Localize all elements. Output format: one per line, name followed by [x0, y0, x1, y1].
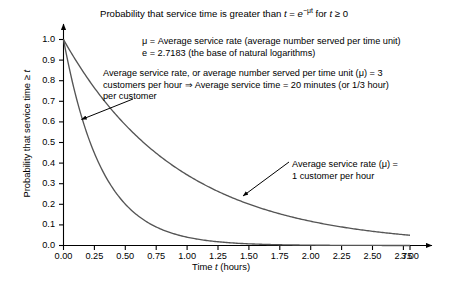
annotation-mu-1-callout: Average service rate (μ) = 1 customer pe…	[292, 159, 398, 182]
y-tick-label-0-5: 0.5	[29, 137, 55, 147]
annotation-definitions: μ = Average service rate (average number…	[142, 36, 401, 59]
x-axis-ticks	[64, 246, 411, 251]
title-tail-rest: ≥ 0	[332, 8, 348, 19]
mu1-line-2: 1 customer per hour	[292, 171, 398, 183]
exponential-service-time-chart: Probability that service time is greater…	[0, 0, 456, 286]
x-tick-label-2-50: 2.50	[356, 251, 390, 261]
y-tick-label-0-4: 0.4	[29, 158, 55, 168]
x-axis-title: Time t (hours)	[192, 261, 250, 273]
y-tick-label-0-3: 0.3	[29, 178, 55, 188]
definition-line-mu: μ = Average service rate (average number…	[142, 36, 401, 48]
y-tick-label-0-2: 0.2	[29, 199, 55, 209]
example-line-2: customers per hour ⇒ Average service tim…	[103, 80, 389, 92]
chart-title: Probability that service time is greater…	[100, 8, 348, 20]
y-tick-label-0-9: 0.9	[29, 55, 55, 65]
annotation-example: Average service rate, or average number …	[103, 68, 389, 103]
example-line-3: per customer	[103, 91, 389, 103]
y-tick-label-0-6: 0.6	[29, 116, 55, 126]
x-tick-label-1-25: 1.25	[201, 251, 235, 261]
mu1-line-1: Average service rate (μ) =	[292, 159, 398, 171]
mu1-leader-arrow	[243, 162, 289, 196]
x-tick-label-0-50: 0.50	[108, 251, 142, 261]
y-tick-label-0-0: 0.0	[29, 240, 55, 250]
title-lead: Probability that service time is greater…	[100, 8, 284, 19]
x-tick-label-3-00: 3.00	[393, 251, 427, 261]
definition-line-e: e = 2.7183 (the base of natural logarith…	[142, 48, 401, 60]
y-axis-title: Probability that service time ≥ t	[21, 39, 33, 229]
title-exponent: −μt	[303, 7, 313, 14]
y-axis-title-var: t	[21, 70, 32, 73]
y-tick-label-0-7: 0.7	[29, 96, 55, 106]
x-tick-label-1-75: 1.75	[263, 251, 297, 261]
x-tick-label-0-75: 0.75	[139, 251, 173, 261]
x-axis-title-tail: (hours)	[218, 261, 250, 272]
x-axis-title-lead: Time	[192, 261, 215, 272]
x-tick-label-2-25: 2.25	[325, 251, 359, 261]
y-tick-label-0-8: 0.8	[29, 75, 55, 85]
x-tick-label-0-25: 0.25	[77, 251, 111, 261]
example-line-1: Average service rate, or average number …	[103, 68, 389, 80]
y-tick-label-1-0: 1.0	[29, 34, 55, 44]
title-equals: =	[287, 8, 298, 19]
y-axis-title-lead: Probability that service time ≥	[21, 73, 32, 198]
x-tick-label-1-50: 1.50	[232, 251, 266, 261]
y-tick-label-0-1: 0.1	[29, 219, 55, 229]
x-tick-label-2-00: 2.00	[294, 251, 328, 261]
title-tail-lead: for	[313, 8, 330, 19]
x-tick-label-1-00: 1.00	[170, 251, 204, 261]
x-tick-label-0-00: 0.00	[47, 251, 81, 261]
y-axis-ticks	[59, 40, 64, 246]
